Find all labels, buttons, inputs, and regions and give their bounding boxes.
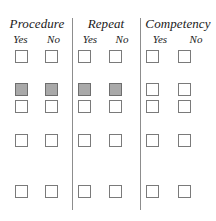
- column-header-competency-yes: Yes: [142, 33, 178, 46]
- checkbox-procedure-no-row-2[interactable]: [45, 83, 58, 96]
- checkbox-repeat-no-row-3[interactable]: [109, 100, 122, 113]
- group-title-competency: Competency: [142, 16, 214, 31]
- checkbox-competency-no-row-4[interactable]: [178, 134, 191, 147]
- group-divider-1: [72, 18, 73, 210]
- checkbox-procedure-yes-row-2[interactable]: [15, 83, 28, 96]
- column-header-repeat-yes: Yes: [74, 33, 106, 46]
- checkbox-procedure-no-row-3[interactable]: [45, 100, 58, 113]
- group-title-procedure: Procedure: [4, 16, 70, 31]
- checkbox-repeat-yes-row-1[interactable]: [78, 50, 91, 63]
- checkbox-repeat-no-row-2[interactable]: [109, 83, 122, 96]
- checkbox-grid-form: Procedure Yes No Repeat Yes No Competenc…: [0, 0, 216, 221]
- checkbox-competency-no-row-3[interactable]: [178, 100, 191, 113]
- checkbox-competency-yes-row-1[interactable]: [146, 50, 159, 63]
- column-header-competency-no: No: [178, 33, 214, 46]
- column-header-repeat-no: No: [106, 33, 138, 46]
- checkbox-repeat-yes-row-2[interactable]: [78, 83, 91, 96]
- checkbox-repeat-yes-row-4[interactable]: [78, 134, 91, 147]
- column-group-repeat: Repeat Yes No: [74, 16, 138, 46]
- subheader-row-procedure: Yes No: [4, 33, 70, 46]
- column-group-procedure: Procedure Yes No: [4, 16, 70, 46]
- group-divider-2: [140, 18, 141, 210]
- checkbox-procedure-no-row-4[interactable]: [45, 134, 58, 147]
- checkbox-competency-no-row-2[interactable]: [178, 83, 191, 96]
- column-group-competency: Competency Yes No: [142, 16, 214, 46]
- column-header-procedure-yes: Yes: [4, 33, 37, 46]
- checkbox-competency-yes-row-3[interactable]: [146, 100, 159, 113]
- checkbox-competency-yes-row-2[interactable]: [146, 83, 159, 96]
- checkbox-repeat-no-row-5[interactable]: [109, 185, 122, 198]
- checkbox-procedure-yes-row-1[interactable]: [15, 50, 28, 63]
- column-header-procedure-no: No: [37, 33, 70, 46]
- checkbox-procedure-yes-row-4[interactable]: [15, 134, 28, 147]
- subheader-row-competency: Yes No: [142, 33, 214, 46]
- checkbox-repeat-no-row-4[interactable]: [109, 134, 122, 147]
- checkbox-procedure-no-row-1[interactable]: [45, 50, 58, 63]
- subheader-row-repeat: Yes No: [74, 33, 138, 46]
- group-title-repeat: Repeat: [74, 16, 138, 31]
- checkbox-procedure-yes-row-5[interactable]: [15, 185, 28, 198]
- checkbox-competency-no-row-1[interactable]: [178, 50, 191, 63]
- checkbox-repeat-no-row-1[interactable]: [109, 50, 122, 63]
- checkbox-competency-no-row-5[interactable]: [178, 185, 191, 198]
- checkbox-repeat-yes-row-3[interactable]: [78, 100, 91, 113]
- checkbox-procedure-yes-row-3[interactable]: [15, 100, 28, 113]
- checkbox-competency-yes-row-5[interactable]: [146, 185, 159, 198]
- checkbox-repeat-yes-row-5[interactable]: [78, 185, 91, 198]
- checkbox-competency-yes-row-4[interactable]: [146, 134, 159, 147]
- checkbox-procedure-no-row-5[interactable]: [45, 185, 58, 198]
